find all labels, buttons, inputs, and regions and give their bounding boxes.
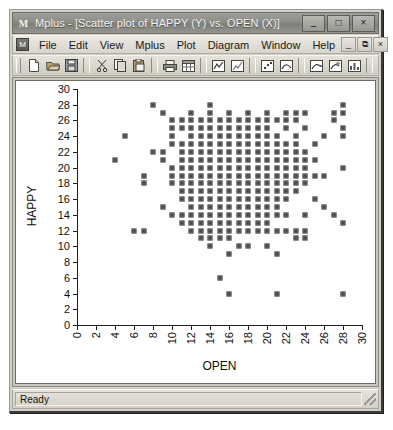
scatter-point xyxy=(170,212,175,217)
scatter-point xyxy=(208,244,213,249)
menu-item-diagram[interactable]: Diagram xyxy=(202,38,256,52)
scatter-point xyxy=(179,189,184,194)
new-file-icon[interactable] xyxy=(24,57,43,74)
maximize-button[interactable]: □ xyxy=(327,15,350,32)
curve-chart-icon[interactable] xyxy=(277,57,296,74)
scatter-point xyxy=(170,173,175,178)
curve-star-icon[interactable] xyxy=(326,57,345,74)
y-axis-tick xyxy=(73,199,77,200)
close-button[interactable]: × xyxy=(352,15,375,32)
paste-clipboard-icon[interactable] xyxy=(130,57,149,74)
scatter-point xyxy=(227,134,232,139)
line-chart-icon[interactable] xyxy=(209,57,228,74)
scatter-point xyxy=(208,157,213,162)
y-axis-tick-label: 2 xyxy=(16,303,70,315)
child-close-button[interactable]: × xyxy=(373,37,388,52)
scatter-point xyxy=(284,212,289,217)
x-axis-tick-label: 4 xyxy=(109,332,121,338)
scatter-point xyxy=(255,228,260,233)
scatter-point xyxy=(189,212,194,217)
y-axis-line xyxy=(77,89,78,326)
scatter-point xyxy=(246,165,251,170)
scatter-point xyxy=(331,212,336,217)
scatter-point xyxy=(246,228,251,233)
menu-item-plot[interactable]: Plot xyxy=(171,38,202,52)
scatter-point xyxy=(246,212,251,217)
scatter-point xyxy=(198,173,203,178)
x-axis-tick xyxy=(134,326,135,330)
save-disk-icon[interactable] xyxy=(62,57,81,74)
x-axis-tick-label: 28 xyxy=(337,332,349,344)
scatter-point xyxy=(189,142,194,147)
scatter-point xyxy=(179,142,184,147)
scatter-point xyxy=(189,189,194,194)
scatter-point xyxy=(236,118,241,123)
mplus-document-icon[interactable]: M xyxy=(16,38,29,51)
scatter-point xyxy=(331,118,336,123)
table-view-icon[interactable] xyxy=(179,57,198,74)
scatter-point xyxy=(208,205,213,210)
bar-chart-icon[interactable] xyxy=(345,57,364,74)
scatter-point xyxy=(189,110,194,115)
minimize-button[interactable]: – xyxy=(302,15,325,32)
scatter-point xyxy=(217,142,222,147)
scatter-point xyxy=(303,236,308,241)
scatter-point xyxy=(236,126,241,131)
line-chart-alt-icon[interactable] xyxy=(228,57,247,74)
scatter-point xyxy=(236,220,241,225)
scatter-point xyxy=(198,236,203,241)
child-minimize-button[interactable]: _ xyxy=(341,37,356,52)
x-axis-tick xyxy=(286,326,287,330)
bar-chart-alt-icon[interactable] xyxy=(375,57,379,74)
scatter-plot-canvas[interactable]: HAPPY OPEN 02468101214161820222426283002… xyxy=(15,80,376,384)
scatter-point xyxy=(198,228,203,233)
child-restore-button[interactable]: ⧉ xyxy=(357,37,372,52)
scatter-point xyxy=(274,197,279,202)
scatter-point xyxy=(303,110,308,115)
toolbar-grip[interactable] xyxy=(16,58,21,73)
menu-item-edit[interactable]: Edit xyxy=(63,38,94,52)
menu-item-help[interactable]: Help xyxy=(306,38,341,52)
x-axis-tick xyxy=(115,326,116,330)
scatter-chart-icon[interactable] xyxy=(258,57,277,74)
open-folder-icon[interactable] xyxy=(43,57,62,74)
y-axis-tick-label: 4 xyxy=(16,288,70,300)
scatter-point xyxy=(284,197,289,202)
toolbar xyxy=(12,55,379,76)
scatter-point xyxy=(179,149,184,154)
y-axis-tick-label: 16 xyxy=(16,193,70,205)
scatter-point xyxy=(265,149,270,154)
toolbar-separator xyxy=(366,58,373,73)
app-icon: M xyxy=(17,17,30,30)
print-icon[interactable] xyxy=(160,57,179,74)
resize-grip-icon[interactable] xyxy=(364,393,376,405)
y-axis-tick xyxy=(73,168,77,169)
scatter-point xyxy=(322,134,327,139)
scatter-point xyxy=(198,134,203,139)
menu-item-window[interactable]: Window xyxy=(255,38,306,52)
scatter-point xyxy=(341,134,346,139)
scatter-point xyxy=(331,110,336,115)
scatter-point xyxy=(284,142,289,147)
menu-item-file[interactable]: File xyxy=(33,38,63,52)
copy-icon[interactable] xyxy=(111,57,130,74)
toolbar-separator xyxy=(151,58,158,73)
scatter-point xyxy=(284,157,289,162)
y-axis-tick-label: 10 xyxy=(16,240,70,252)
scatter-point xyxy=(217,157,222,162)
scatter-point xyxy=(246,118,251,123)
menu-item-mplus[interactable]: Mplus xyxy=(129,38,170,52)
scatter-point xyxy=(141,228,146,233)
x-axis-tick xyxy=(172,326,173,330)
scatter-point xyxy=(312,142,317,147)
curve-arrow-icon[interactable] xyxy=(307,57,326,74)
scatter-point xyxy=(208,126,213,131)
scatter-point xyxy=(160,157,165,162)
scatter-point xyxy=(303,173,308,178)
scatter-point xyxy=(227,212,232,217)
y-axis-tick-label: 30 xyxy=(16,83,70,95)
cut-scissors-icon[interactable] xyxy=(92,57,111,74)
scatter-point xyxy=(246,189,251,194)
scatter-point xyxy=(341,126,346,131)
menu-item-view[interactable]: View xyxy=(94,38,130,52)
